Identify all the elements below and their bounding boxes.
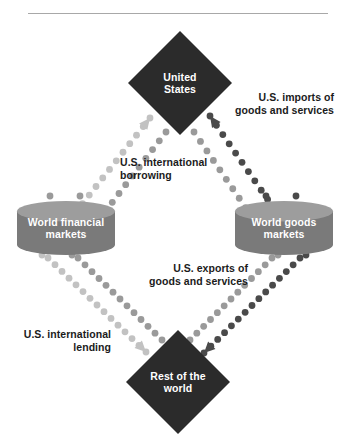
flow-dot [99, 175, 106, 182]
flow-dot [239, 159, 246, 166]
flow-dot [262, 261, 269, 268]
circular-flow-diagram: UnitedStatesWorld financialmarketsWorld … [0, 0, 342, 442]
flow-label-line: goods and services [149, 275, 248, 287]
flow-dot [73, 281, 80, 288]
node-label-line: Rest of the [150, 370, 205, 382]
flow-dot [120, 149, 127, 156]
flow-dot [66, 275, 73, 282]
flow-label-line: U.S. international [120, 156, 207, 168]
node-label-line: world [163, 382, 193, 394]
flow-dot [94, 302, 101, 309]
node-label-line: United [163, 71, 196, 83]
flow-dot [159, 337, 166, 344]
flow-dot [110, 289, 117, 296]
flow-dot [80, 288, 87, 295]
flow-dot [204, 148, 211, 155]
flow-dot [152, 330, 159, 337]
flow-dot [207, 316, 214, 323]
flow-dot [269, 282, 276, 289]
figure-container: UnitedStatesWorld financialmarketsWorld … [0, 0, 342, 442]
flow-dot [115, 322, 122, 329]
flow-dot [223, 176, 230, 183]
flow-label-line: borrowing [120, 169, 172, 181]
flow-label-line: U.S. international [24, 328, 111, 340]
flow-dot [232, 150, 239, 157]
flow-dot [122, 181, 129, 188]
flow-dot [297, 255, 304, 262]
node-label-line: States [164, 83, 196, 95]
flow-dot [234, 289, 241, 296]
flow-dot [145, 323, 152, 330]
flow-dot [117, 296, 124, 303]
flow-dot [87, 295, 94, 302]
flow-dot [59, 268, 66, 275]
flow-dot [82, 261, 89, 268]
flow-dot [52, 261, 59, 268]
flow-dot [109, 199, 116, 206]
flow-dot [126, 140, 133, 147]
flow-label-us-imports-of-goods-and-services: U.S. imports ofgoods and services [235, 91, 334, 116]
flow-dot [228, 322, 235, 329]
flow-dot [251, 177, 258, 184]
flow-dot [116, 190, 123, 197]
flow-label-line: U.S. exports of [173, 262, 248, 274]
flow-label-us-international-lending: U.S. internationallending [24, 328, 111, 353]
flow-dot [113, 157, 120, 164]
flow-label-us-exports-of-goods-and-services: U.S. exports ofgoods and services [149, 262, 248, 287]
flow-dot [93, 183, 100, 190]
flow-dot [229, 185, 236, 192]
flow-dot [249, 302, 256, 309]
flow-label-line: lending [73, 341, 111, 353]
flow-dot [276, 275, 283, 282]
flow-dot [221, 329, 228, 336]
node-label-line: markets [264, 228, 305, 240]
flow-dot [129, 335, 136, 342]
flow-dot [138, 316, 145, 323]
flow-dot [47, 193, 54, 200]
flow-dot [219, 131, 226, 138]
flow-dot [103, 282, 110, 289]
flow-dot [75, 255, 82, 262]
flow-dot [122, 328, 129, 335]
node-label-line: markets [46, 228, 87, 240]
flow-dot [263, 193, 270, 200]
flow-dot [45, 255, 52, 262]
flow-dot [96, 275, 103, 282]
flow-dot [89, 268, 96, 275]
flow-dot [133, 132, 140, 139]
flow-dot [245, 168, 252, 175]
flow-dot [293, 193, 300, 200]
flow-dot [156, 137, 163, 144]
flow-label-us-international-borrowing: U.S. internationalborrowing [120, 156, 207, 181]
flow-dot [101, 308, 108, 315]
flow-dot [197, 138, 204, 145]
flow-dot [255, 295, 262, 302]
flow-dot [106, 166, 113, 173]
node-united-states[interactable]: UnitedStates [128, 31, 232, 135]
flow-dot [131, 309, 138, 316]
flow-dot [216, 166, 223, 173]
node-label-line: World goods [251, 216, 316, 228]
flow-dot [226, 140, 233, 147]
node-label: UnitedStates [163, 71, 196, 96]
flow-dot [262, 289, 269, 296]
flow-dot [221, 302, 228, 309]
node-world-financial-markets[interactable]: World financialmarkets [17, 201, 115, 255]
flow-dot [77, 193, 84, 200]
flow-dot [258, 187, 265, 194]
flow-dot [242, 309, 249, 316]
arrowhead [204, 342, 215, 353]
flow-dot [163, 129, 170, 136]
node-world-goods-markets[interactable]: World goodsmarkets [235, 201, 333, 255]
flow-dot [235, 316, 242, 323]
flow-dot [228, 296, 235, 303]
flow-dot [214, 309, 221, 316]
flow-dot [193, 330, 200, 337]
flow-dot [269, 255, 276, 262]
flow-dot [214, 336, 221, 343]
flow-dot [290, 261, 297, 268]
flow-dot [108, 315, 115, 322]
flow-dot [255, 268, 262, 275]
flow-dot [191, 129, 198, 136]
flow-label-line: goods and services [235, 104, 334, 116]
